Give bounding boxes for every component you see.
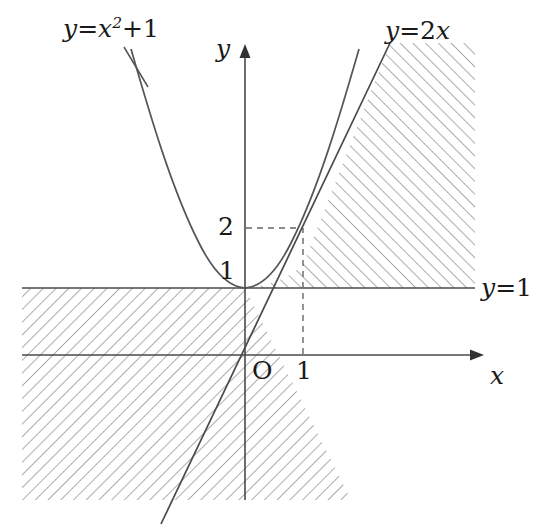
horizontal-label-eq: =: [495, 273, 516, 302]
parabola-label-eq: =: [77, 14, 98, 43]
x-tick-label-1: 1: [296, 358, 312, 383]
tangent-label-var: x: [436, 16, 450, 45]
tangent-line-label: y=2x: [385, 18, 450, 43]
parabola-label-lhs: y: [63, 14, 77, 43]
parabola-label-var: x: [98, 14, 112, 43]
parabola-label-plus: +: [122, 14, 143, 43]
y-axis-arrowhead: [240, 44, 251, 58]
horizontal-line-label: y=1: [481, 275, 532, 300]
y-axis-label: y: [216, 36, 230, 61]
x-axis-label: x: [490, 363, 504, 388]
horizontal-label-lhs: y: [481, 273, 495, 302]
parabola-label-constant: 1: [143, 14, 159, 43]
tangent-label-coefficient: 2: [420, 16, 436, 45]
origin-label: O: [252, 358, 273, 383]
parabola-label-leader: [124, 47, 148, 87]
parabola-label-exponent: 2: [112, 14, 122, 32]
graph-canvas: [0, 0, 539, 529]
parabola-label: y=x2+1: [63, 16, 159, 41]
tangent-label-lhs: y: [385, 16, 399, 45]
y-tick-label-1: 1: [219, 258, 235, 283]
graph-figure: y=x2+1 y=2x y=1 y x O 1 1 2: [0, 0, 539, 529]
tangent-label-eq: =: [399, 16, 420, 45]
horizontal-label-constant: 1: [516, 273, 532, 302]
y-tick-label-2: 2: [218, 214, 234, 239]
x-axis-arrowhead: [470, 350, 484, 361]
